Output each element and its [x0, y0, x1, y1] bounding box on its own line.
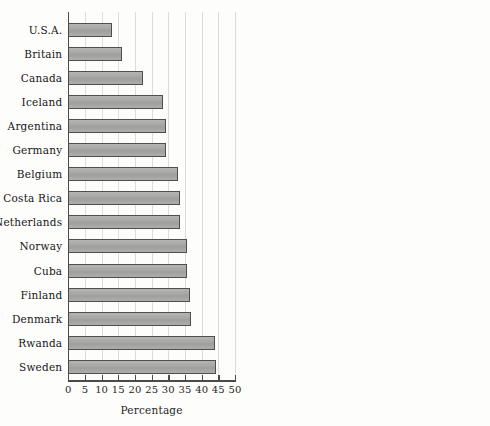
bar: [68, 360, 215, 374]
bar: [68, 71, 143, 85]
bar: [68, 336, 214, 350]
y-axis-line: [68, 12, 70, 380]
bar-chart: U.S.A.BritainCanadaIcelandArgentinaGerma…: [0, 0, 490, 426]
category-label: Germany: [12, 143, 62, 157]
category-label: Sweden: [19, 360, 62, 374]
category-label: Netherlands: [0, 215, 62, 229]
category-label: Cuba: [34, 264, 63, 278]
bar: [68, 191, 179, 205]
category-label: Belgium: [17, 167, 63, 181]
x-axis-title: Percentage: [52, 404, 252, 416]
gridline: [235, 12, 236, 380]
x-tick: [218, 375, 219, 380]
category-label: Rwanda: [18, 336, 62, 350]
category-label: Britain: [24, 47, 62, 61]
category-label: Finland: [20, 288, 62, 302]
plot-area: U.S.A.BritainCanadaIcelandArgentinaGerma…: [0, 0, 490, 426]
bar: [68, 47, 121, 61]
x-tick: [68, 375, 69, 380]
x-axis-line: [68, 380, 236, 382]
category-label: Denmark: [12, 312, 62, 326]
bar: [68, 119, 166, 133]
x-tick: [135, 375, 136, 380]
category-label: Iceland: [22, 95, 63, 109]
bar: [68, 143, 166, 157]
category-label: Costa Rica: [3, 191, 62, 205]
bar: [68, 167, 178, 181]
bar: [68, 95, 163, 109]
category-label: Canada: [21, 71, 63, 85]
x-tick: [85, 375, 86, 380]
category-label: Argentina: [8, 119, 63, 133]
bar: [68, 312, 191, 326]
gridline: [218, 12, 219, 380]
bar: [68, 239, 187, 253]
x-tick: [102, 375, 103, 380]
bar: [68, 23, 112, 37]
x-tick: [235, 375, 236, 380]
gridline: [202, 12, 203, 380]
x-tick-label: 50: [220, 384, 250, 396]
x-tick: [152, 375, 153, 380]
category-label: Norway: [19, 239, 62, 253]
x-tick: [185, 375, 186, 380]
category-label: U.S.A.: [29, 23, 63, 37]
bar: [68, 215, 179, 229]
bar: [68, 264, 187, 278]
bar: [68, 288, 190, 302]
x-tick: [202, 375, 203, 380]
x-tick: [168, 375, 169, 380]
x-tick: [118, 375, 119, 380]
